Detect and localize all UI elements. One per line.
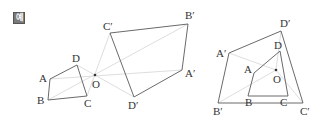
vertex-image-label: A′ bbox=[185, 67, 195, 79]
vertex-image-label: B′ bbox=[185, 9, 195, 21]
vertex-inner-label: B bbox=[245, 96, 252, 108]
ray-combined-0 bbox=[229, 53, 276, 70]
similarity-diagram: 예 ABCDA′B′C′D′ABCDA′B′C′D′OO bbox=[0, 0, 322, 117]
vertex-orig-label: C bbox=[84, 97, 91, 109]
ray-A bbox=[50, 70, 182, 79]
example-badge: 예 bbox=[13, 12, 25, 24]
ray-B bbox=[48, 24, 188, 100]
left-center-label: O bbox=[92, 78, 100, 90]
vertex-inner-label: C bbox=[280, 96, 287, 108]
vertex-outer-label: A′ bbox=[216, 47, 226, 59]
inner-quad-ABCD bbox=[248, 51, 288, 96]
vertex-orig-label: D bbox=[72, 52, 80, 64]
right-center-point bbox=[275, 69, 278, 72]
geometry-canvas: ABCDA′B′C′D′ABCDA′B′C′D′OO bbox=[0, 0, 322, 117]
quadrilateral-edges bbox=[48, 24, 303, 103]
vertex-orig-label: B bbox=[37, 94, 44, 106]
example-badge-label: 예 bbox=[16, 14, 23, 22]
vertex-outer-label: D′ bbox=[280, 17, 290, 29]
right-center-label: O bbox=[273, 73, 281, 85]
vertex-orig-label: A bbox=[39, 72, 47, 84]
vertex-inner-label: D bbox=[274, 39, 282, 51]
vertex-outer-label: B′ bbox=[213, 105, 223, 117]
vertex-image-label: C′ bbox=[103, 20, 113, 32]
left-center-point bbox=[94, 74, 97, 77]
vertex-image-label: D′ bbox=[128, 99, 138, 111]
vertex-inner-label: A bbox=[244, 63, 252, 75]
vertex-outer-label: C′ bbox=[300, 105, 310, 117]
